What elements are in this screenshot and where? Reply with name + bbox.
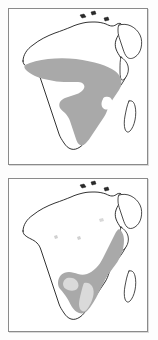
mediterranean-island-1-lower	[80, 184, 86, 188]
madagascar-outline-upper	[124, 101, 136, 132]
mediterranean-island-1-upper	[80, 14, 86, 18]
range-gap-upper	[102, 97, 113, 110]
mediterranean-island-3-lower	[104, 187, 109, 191]
figure-container	[0, 0, 158, 340]
africa-map-upper	[9, 9, 147, 164]
arabia-outline-upper	[118, 24, 142, 58]
arabia-outline-lower	[118, 194, 142, 228]
africa-map-lower	[9, 179, 147, 331]
madagascar-outline-lower	[124, 271, 136, 302]
mediterranean-island-2-lower	[91, 181, 96, 185]
horn-of-africa-upper	[120, 57, 128, 80]
map-panel-lower	[8, 178, 148, 332]
mediterranean-island-2-upper	[91, 11, 96, 15]
mediterranean-island-3-upper	[104, 17, 109, 21]
map-panel-upper	[8, 8, 148, 165]
